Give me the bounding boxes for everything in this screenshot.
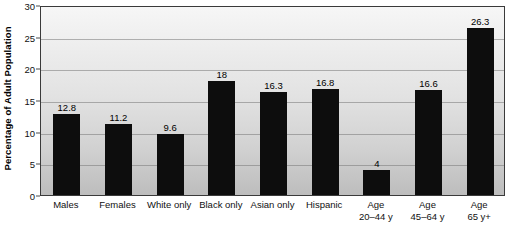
x-tick-label-line: Age	[367, 199, 384, 210]
x-tick-label-line: Males	[53, 199, 78, 210]
bar-group: 11.2	[105, 7, 132, 195]
y-tick-label: 15	[24, 96, 35, 107]
bar-group: 26.3	[467, 7, 494, 195]
bar	[363, 170, 390, 195]
x-tick-label: Age65 y+	[453, 199, 505, 222]
bar-group: 9.6	[157, 7, 184, 195]
bar-value-label: 18	[196, 69, 247, 80]
bar	[208, 81, 235, 195]
x-tick-label: Males	[40, 199, 92, 211]
bar-value-label: 16.3	[248, 80, 299, 91]
bar	[467, 28, 494, 195]
bar-chart: Percentage of Adult Population 051015202…	[0, 0, 513, 232]
y-tick-label: 5	[30, 159, 35, 170]
bar-value-label: 26.3	[455, 16, 505, 27]
y-tick-label: 10	[24, 127, 35, 138]
y-tick-label: 25	[24, 32, 35, 43]
bar	[415, 90, 442, 195]
bar-group: 16.8	[312, 7, 339, 195]
bar-value-label: 16.6	[403, 78, 454, 89]
bar-value-label: 12.8	[41, 102, 92, 113]
x-tick-label-line: 20–44 y	[350, 211, 402, 223]
x-tick-label: White only	[143, 199, 195, 211]
x-tick-label: Black only	[195, 199, 247, 211]
x-tick-label-line: Asian only	[251, 199, 295, 210]
bar-group: 16.3	[260, 7, 287, 195]
x-tick-label-line: Black only	[199, 199, 242, 210]
bar-value-label: 9.6	[145, 122, 196, 133]
bar-value-label: 16.8	[300, 77, 351, 88]
x-tick-label-line: 45–64 y	[402, 211, 454, 223]
bar	[105, 124, 132, 195]
x-tick-label: Age45–64 y	[402, 199, 454, 222]
x-tick-label: Females	[92, 199, 144, 211]
y-tick-label: 30	[24, 1, 35, 12]
y-axis-title: Percentage of Adult Population	[0, 0, 14, 196]
x-tick-label-line: Females	[99, 199, 135, 210]
x-tick-label-line: Age	[471, 199, 488, 210]
bar	[53, 114, 80, 195]
x-tick-label: Age20–44 y	[350, 199, 402, 222]
x-tick-label: Asian only	[247, 199, 299, 211]
x-axis: MalesFemalesWhite onlyBlack onlyAsian on…	[40, 199, 505, 232]
bar	[260, 92, 287, 195]
x-tick-label-line: Age	[419, 199, 436, 210]
x-tick-label-line: Hispanic	[306, 199, 342, 210]
bar	[157, 134, 184, 195]
bar-value-label: 4	[351, 158, 402, 169]
bars-layer: 12.811.29.61816.316.8416.626.3	[41, 7, 504, 195]
x-tick-label: Hispanic	[298, 199, 350, 211]
x-tick-label-line: 65 y+	[453, 211, 505, 223]
bar-group: 4	[363, 7, 390, 195]
bar-group: 18	[208, 7, 235, 195]
bar-group: 12.8	[53, 7, 80, 195]
y-axis: 051015202530	[14, 0, 40, 202]
x-tick-label-line: White only	[147, 199, 191, 210]
y-tick-label: 20	[24, 64, 35, 75]
y-axis-title-text: Percentage of Adult Population	[2, 26, 13, 170]
bar	[312, 89, 339, 195]
bar-value-label: 11.2	[93, 112, 144, 123]
bar-group: 16.6	[415, 7, 442, 195]
y-tick-label: 0	[30, 191, 35, 202]
plot-area: 12.811.29.61816.316.8416.626.3	[40, 6, 505, 196]
